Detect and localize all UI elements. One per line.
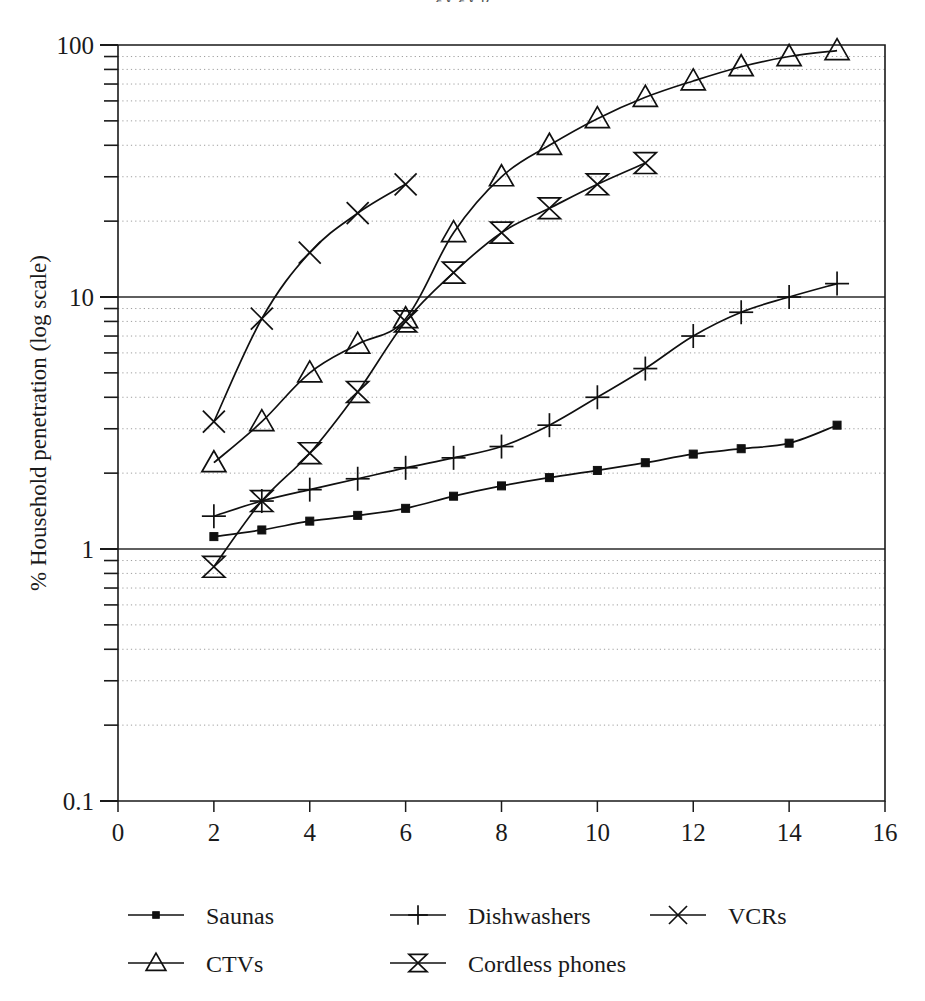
marker-square — [153, 912, 160, 919]
x-axis-tick-label: 2 — [208, 819, 221, 846]
marker-triangle-up — [202, 451, 226, 472]
legend-item-saunas[interactable]: Saunas — [128, 903, 274, 929]
legend-label: CTVs — [206, 951, 263, 977]
legend-label: VCRs — [728, 903, 787, 929]
marker-bowtie — [634, 153, 656, 174]
x-axis-tick-label: 10 — [585, 819, 610, 846]
marker-triangle-up — [346, 332, 370, 353]
legend-item-vcrs[interactable]: VCRs — [650, 903, 787, 929]
clipped-header-text: gy gy p — [0, 0, 925, 2]
x-axis-tick-label: 6 — [399, 819, 412, 846]
marker-square — [689, 450, 697, 458]
marker-square — [354, 511, 362, 519]
marker-square — [593, 466, 601, 474]
x-axis-tick-label: 16 — [873, 819, 898, 846]
series-group — [202, 39, 849, 578]
marker-bowtie — [443, 262, 465, 283]
marker-square — [833, 421, 841, 429]
chart-legend: SaunasDishwashersVCRsCTVsCordless phones — [128, 903, 787, 977]
x-axis-tick-label: 8 — [495, 819, 508, 846]
legend-item-dishwashers[interactable]: Dishwashers — [390, 903, 591, 929]
series-cordless-phones — [203, 153, 656, 578]
legend-label: Saunas — [206, 903, 274, 929]
marker-bowtie — [586, 174, 608, 195]
line-chart: 1001010.10246810121416% Household penetr… — [0, 0, 925, 1001]
marker-triangle-up — [394, 307, 418, 328]
marker-square — [785, 439, 793, 447]
y-axis-tick-label: 10 — [69, 284, 94, 311]
marker-bowtie — [203, 556, 225, 577]
legend-item-ctvs[interactable]: CTVs — [128, 951, 263, 977]
marker-bowtie — [347, 381, 369, 402]
marker-square — [737, 445, 745, 453]
marker-triangle-up — [633, 85, 657, 106]
x-axis-tick-label: 12 — [681, 819, 706, 846]
marker-bowtie — [491, 222, 513, 243]
series-line — [214, 163, 645, 567]
legend-label: Dishwashers — [468, 903, 591, 929]
chart-figure: gy gy p 1001010.10246810121416% Househol… — [0, 0, 925, 1001]
marker-triangle-up — [298, 361, 322, 382]
marker-square — [210, 533, 218, 541]
y-axis-tick-label: 100 — [57, 32, 95, 59]
x-axis-tick-label: 4 — [304, 819, 317, 846]
series-line — [214, 51, 837, 463]
marker-square — [258, 526, 266, 534]
legend-label: Cordless phones — [468, 951, 626, 977]
y-axis-tick-label: 1 — [82, 536, 95, 563]
x-axis-tick-label: 0 — [112, 819, 125, 846]
marker-triangle-up — [681, 69, 705, 90]
series-vcrs — [203, 173, 417, 432]
grid-lines — [100, 45, 885, 801]
series-dishwashers — [202, 272, 849, 529]
series-saunas — [210, 421, 841, 540]
marker-square — [545, 474, 553, 482]
series-ctvs — [202, 39, 849, 472]
legend-item-cordless-phones[interactable]: Cordless phones — [390, 951, 626, 977]
marker-triangle-up — [146, 953, 166, 970]
marker-square — [402, 504, 410, 512]
y-axis-tick-label: 0.1 — [63, 788, 94, 815]
marker-square — [641, 459, 649, 467]
x-axis-tick-label: 14 — [777, 819, 803, 846]
marker-triangle-up — [585, 107, 609, 128]
y-axis-title: % Household penetration (log scale) — [26, 255, 51, 591]
marker-square — [306, 517, 314, 525]
marker-triangle-up — [490, 165, 514, 186]
marker-square — [450, 492, 458, 500]
marker-square — [498, 482, 506, 490]
marker-bowtie — [299, 443, 321, 464]
marker-bowtie — [538, 198, 560, 219]
series-line — [214, 184, 406, 421]
plot-border — [118, 45, 885, 801]
